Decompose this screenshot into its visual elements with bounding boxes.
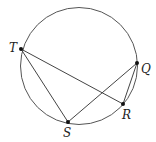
- chord-tr: [21, 49, 123, 104]
- circle: [21, 8, 138, 125]
- label-t: T: [9, 41, 18, 55]
- label-r: R: [121, 108, 131, 122]
- circle-diagram: T Q R S: [0, 0, 156, 142]
- point-q: [135, 61, 139, 65]
- point-r: [121, 102, 125, 106]
- label-s: S: [63, 126, 71, 140]
- chord-ts: [21, 49, 68, 122]
- point-s: [66, 120, 70, 124]
- point-t: [19, 47, 23, 51]
- label-q: Q: [141, 62, 151, 76]
